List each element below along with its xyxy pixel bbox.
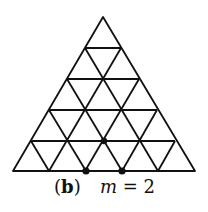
parameter-label: m = 2 [100, 176, 155, 197]
highlight-point [101, 138, 107, 144]
outer-triangle [13, 17, 195, 171]
highlight-point [118, 167, 125, 174]
highlight-point [82, 167, 89, 174]
subfigure-label: (b) [54, 176, 81, 197]
